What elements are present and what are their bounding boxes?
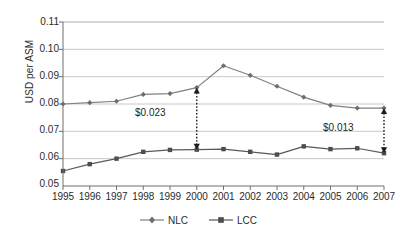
data-point-lcc: [328, 147, 332, 151]
legend-item-nlc[interactable]: NLC: [139, 215, 188, 226]
y-tick-label: 0.11: [25, 17, 59, 27]
data-point-nlc: [274, 84, 279, 89]
y-tick-label: 0.06: [25, 152, 59, 162]
data-point-nlc: [167, 91, 172, 96]
data-point-lcc: [221, 147, 225, 151]
annotation-label-left: $0.023: [135, 107, 166, 118]
plot-area: [63, 22, 384, 186]
legend-marker-diamond-icon: [139, 215, 165, 225]
data-point-lcc: [88, 162, 92, 166]
data-point-lcc: [355, 146, 359, 150]
chart-canvas: [63, 22, 384, 186]
data-point-nlc: [355, 106, 360, 111]
data-point-lcc: [302, 144, 306, 148]
legend-label-lcc: LCC: [237, 215, 257, 226]
legend-item-lcc[interactable]: LCC: [208, 215, 257, 226]
x-axis-tick-labels: 1995199619971998199920002001200220032004…: [63, 191, 384, 205]
series-layer: [60, 63, 386, 173]
x-tick-label: 2007: [364, 191, 396, 202]
y-axis-tick-labels: 0.11 0.10 0.09 0.08 0.07 0.06 0.05: [23, 22, 59, 186]
legend-label-nlc: NLC: [168, 215, 188, 226]
data-point-nlc: [114, 99, 119, 104]
chart-figure: USD per ASM 0.11 0.10 0.09 0.08 0.07 0.0…: [0, 0, 396, 243]
gridlines: [59, 22, 384, 159]
chart-legend: NLC LCC: [0, 210, 396, 230]
data-point-lcc: [248, 150, 252, 154]
data-point-nlc: [141, 92, 146, 97]
series-line-nlc: [63, 66, 384, 108]
data-point-lcc: [114, 156, 118, 160]
annotation-arrow-head-up: [381, 108, 387, 114]
data-point-nlc: [301, 95, 306, 100]
y-tick-label: 0.10: [25, 44, 59, 54]
y-tick-label: 0.07: [25, 125, 59, 135]
data-point-lcc: [275, 152, 279, 156]
y-tick-label: 0.08: [25, 98, 59, 108]
x-tick-marks: [63, 186, 384, 190]
data-point-lcc: [141, 150, 145, 154]
annotation-arrows: [194, 88, 387, 154]
y-tick-label: 0.05: [25, 179, 59, 189]
legend-marker-square-icon: [208, 215, 234, 225]
y-tick-label: 0.09: [25, 71, 59, 81]
annotation-label-right: $0.013: [323, 122, 354, 133]
data-point-lcc: [168, 148, 172, 152]
